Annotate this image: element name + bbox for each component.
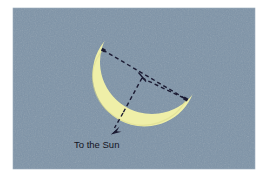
crescent-moon: [88, 40, 198, 135]
diagram-canvas: To the Sun: [0, 0, 266, 181]
figure-root: To the Sun: [0, 0, 266, 181]
sun-direction-label: To the Sun: [74, 139, 119, 150]
